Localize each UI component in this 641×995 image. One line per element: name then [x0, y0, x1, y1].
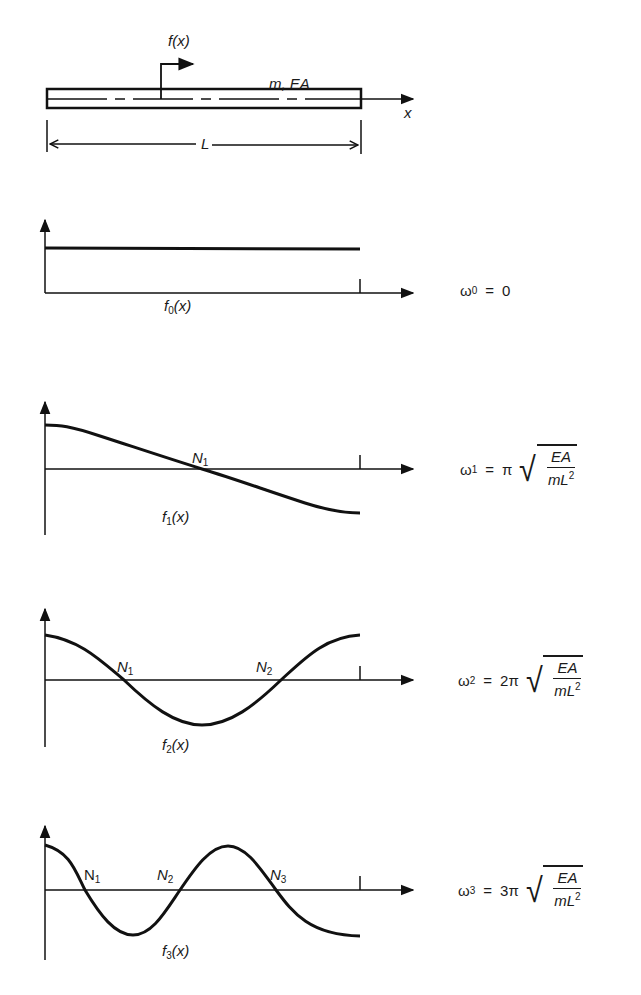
- mode-0-shape-label: f0(x): [164, 297, 191, 316]
- force-label: f(x): [168, 32, 190, 49]
- mode-1-node-1: N1: [192, 449, 208, 468]
- mode-0-frequency: ω0 = 0: [460, 282, 510, 299]
- mode-0-plot: [45, 220, 413, 293]
- mode-3-node-3: N3: [270, 866, 286, 885]
- x-axis-label: x: [404, 104, 412, 121]
- mode-1-shape-label: f1(x): [162, 508, 189, 527]
- diagram-canvas: [0, 0, 641, 995]
- mode-3-plot: [45, 826, 413, 960]
- mode-2-frequency: ω2 = 2π √EAmL2: [458, 661, 583, 699]
- mode-1-frequency: ω1 = π √EAmL2: [460, 450, 577, 488]
- mode-3-node-2: N2: [157, 866, 173, 885]
- length-label: L: [199, 135, 211, 152]
- mode-3-shape-label: f3(x): [162, 942, 189, 961]
- mode-2-node-2: N2: [256, 658, 272, 677]
- mode-2-plot: [45, 609, 413, 747]
- force-arrow: [161, 64, 193, 99]
- mode-0-shape: [45, 248, 360, 249]
- mode-1-plot: [45, 402, 413, 535]
- mode-3-frequency: ω3 = 3π √EAmL2: [458, 871, 583, 909]
- mode-2-shape-label: f2(x): [162, 736, 189, 755]
- property-label: m, EA: [269, 75, 310, 92]
- mode-3-node-1: N1: [84, 866, 100, 885]
- bar-figure: [47, 64, 413, 154]
- mode-2-node-1: N1: [117, 658, 133, 677]
